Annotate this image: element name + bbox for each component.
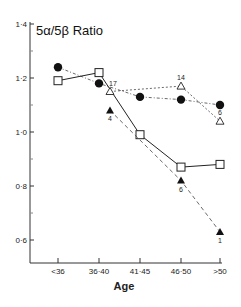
x-tick-label: 36·40 — [89, 267, 110, 276]
y-tick-label: 1·4 — [15, 20, 27, 29]
sample-size-label: 17 — [109, 80, 117, 87]
marker-open-square — [177, 163, 185, 171]
series-line — [110, 86, 220, 121]
marker-filled-circle — [54, 63, 62, 71]
marker-filled-circle — [95, 79, 103, 87]
y-tick-label: 0·6 — [15, 236, 27, 245]
marker-filled-circle — [177, 95, 185, 103]
marker-open-square — [54, 77, 62, 85]
chart-canvas: 0·60·81·01·21·4<3636·4041·4546·50>50 171… — [0, 0, 241, 307]
series-line — [58, 73, 220, 168]
y-tick-label: 1·0 — [15, 128, 27, 137]
y-tick-label: 0·8 — [15, 182, 27, 191]
series-layer: 17146461 — [54, 63, 224, 244]
x-tick-label: <36 — [51, 267, 65, 276]
axes: 0·60·81·01·21·4<3636·4041·4546·50>50 — [15, 20, 227, 276]
x-axis-label: Age — [114, 280, 135, 292]
series-line — [110, 110, 220, 231]
marker-filled-circle — [136, 93, 144, 101]
marker-open-square — [95, 69, 103, 77]
x-tick-label: 41·45 — [130, 267, 151, 276]
marker-filled-triangle — [177, 177, 185, 184]
marker-filled-triangle — [106, 106, 114, 113]
marker-open-triangle — [177, 82, 185, 89]
sample-size-label: 14 — [177, 74, 185, 81]
marker-open-triangle — [106, 88, 114, 95]
marker-open-square — [216, 160, 224, 168]
sample-size-label: 1 — [218, 237, 222, 244]
marker-open-triangle — [216, 117, 224, 124]
y-tick-label: 1·2 — [15, 74, 27, 83]
sample-size-label: 4 — [108, 115, 112, 122]
x-tick-label: 46·50 — [171, 267, 192, 276]
chart-title: 5α/5β Ratio — [36, 23, 103, 38]
marker-filled-triangle — [216, 228, 224, 235]
sample-size-label: 6 — [179, 186, 183, 193]
marker-filled-circle — [216, 101, 224, 109]
sample-size-label: 6 — [218, 109, 222, 116]
x-tick-label: >50 — [213, 267, 227, 276]
